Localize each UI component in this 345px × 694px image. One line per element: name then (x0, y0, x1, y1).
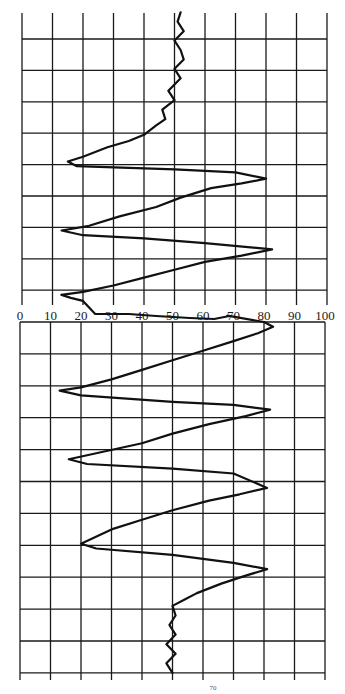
x-tick-label: 90 (288, 308, 301, 323)
upper-trace-line (62, 12, 273, 295)
lower-trace-line (60, 316, 274, 673)
x-axis-tick-labels: 0102030405060708090100 (17, 308, 335, 323)
x-tick-label: 100 (315, 308, 335, 323)
x-tick-label: 20 (75, 308, 88, 323)
page-number-mark: 70 (210, 684, 218, 692)
x-tick-label: 10 (44, 308, 57, 323)
upper-grid (22, 13, 327, 305)
lower-grid (20, 322, 325, 680)
x-tick-label: 60 (197, 308, 210, 323)
x-tick-label: 30 (105, 308, 118, 323)
x-tick-label: 50 (166, 308, 179, 323)
strip-chart: 0102030405060708090100 70 (0, 0, 345, 694)
x-tick-label: 0 (17, 308, 24, 323)
